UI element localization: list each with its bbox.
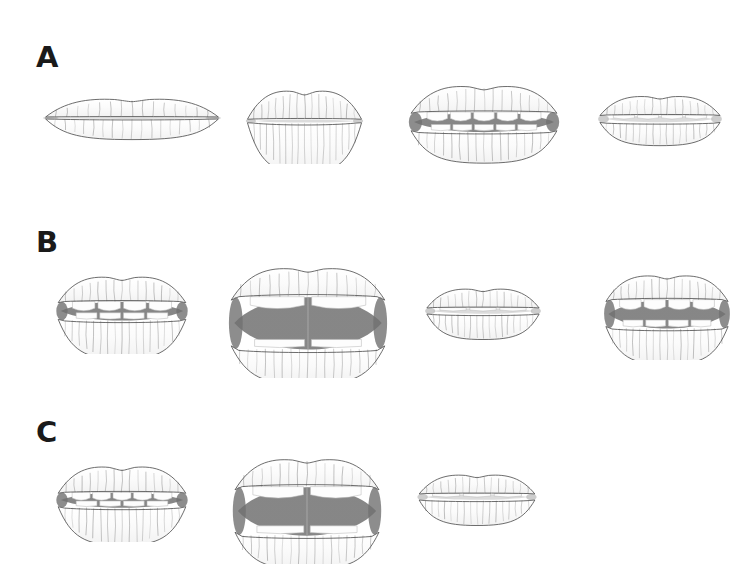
lips-a2 [232,78,377,164]
lips-c1 [52,458,192,542]
panel-label-c: C [36,418,57,447]
panel-label-a: A [36,43,58,72]
panel-label-b: B [36,228,58,257]
lips-b4 [600,268,734,360]
lips-a1 [42,88,222,148]
lips-c2 [232,458,382,564]
lips-c3 [410,466,544,528]
lips-b1 [52,268,192,354]
lips-a4 [592,88,728,150]
lip-shape-figure: A [0,0,754,586]
lips-a3 [404,80,564,164]
lips-b3 [418,280,548,342]
lips-b2 [228,268,388,378]
